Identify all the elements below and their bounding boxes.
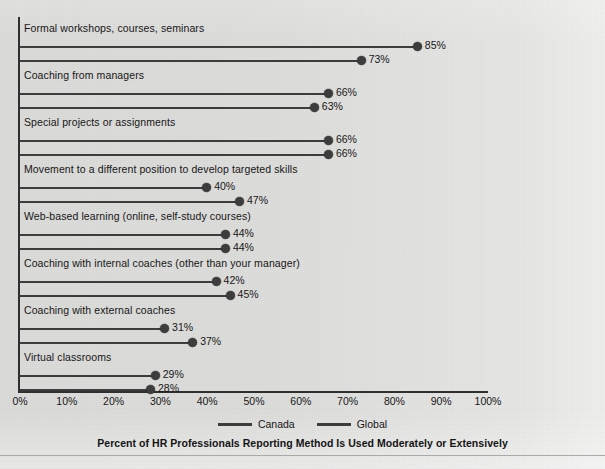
data-point-label: 66%: [336, 86, 357, 98]
legend-line-swatch: [317, 423, 351, 426]
x-axis-tick-labels: 0%10%20%30%40%50%60%70%80%90%100%: [0, 395, 605, 411]
x-axis-tick-label: 60%: [290, 395, 311, 408]
data-point-marker: [357, 56, 366, 65]
x-axis-tick-label: 100%: [475, 395, 502, 408]
data-point-marker: [310, 103, 319, 112]
legend-item-global: Global: [317, 418, 387, 431]
data-point-label: 42%: [224, 274, 245, 286]
group-label: Coaching from managers: [24, 69, 144, 81]
chart-caption: Percent of HR Professionals Reporting Me…: [0, 436, 605, 450]
group-label: Coaching with external coaches: [24, 304, 175, 316]
x-axis-line: [18, 391, 488, 393]
data-point-marker: [212, 277, 221, 286]
data-point-marker: [235, 197, 244, 206]
data-point-marker: [324, 150, 333, 159]
lollipop-stem: [20, 107, 313, 109]
data-point-marker: [160, 324, 169, 333]
data-point-label: 73%: [369, 53, 390, 65]
group-label: Special projects or assignments: [24, 116, 175, 128]
data-point-label: 44%: [233, 227, 254, 239]
data-point-marker: [221, 244, 230, 253]
data-point-label: 37%: [200, 335, 221, 347]
legend-item-canada: Canada: [218, 418, 295, 431]
data-point-marker: [188, 338, 197, 347]
data-point-label: 44%: [233, 241, 254, 253]
x-axis-tick-label: 40%: [197, 395, 218, 408]
data-point-label: 66%: [336, 147, 357, 159]
data-point-label: 31%: [172, 321, 193, 333]
legend-line-swatch: [218, 423, 252, 426]
lollipop-stem: [20, 295, 229, 297]
x-axis-tick-label: 30%: [150, 395, 171, 408]
data-point-marker: [324, 136, 333, 145]
lollipop-chart: Formal workshops, courses, seminars85%73…: [0, 0, 605, 469]
x-axis-tick-label: 10%: [56, 395, 77, 408]
data-point-label: 45%: [238, 288, 259, 300]
lollipop-stem: [20, 46, 416, 48]
data-point-label: 40%: [214, 180, 235, 192]
lollipop-stem: [20, 248, 224, 250]
group-label: Web-based learning (online, self-study c…: [24, 210, 251, 222]
group-label: Movement to a different position to deve…: [24, 163, 298, 175]
lollipop-stem: [20, 154, 327, 156]
chart-legend: CanadaGlobal: [0, 416, 605, 432]
data-point-marker: [413, 42, 422, 51]
lollipop-stem: [20, 93, 327, 95]
lollipop-stem: [20, 389, 149, 391]
x-axis-tick-label: 70%: [337, 395, 358, 408]
group-label: Coaching with internal coaches (other th…: [24, 257, 300, 269]
lollipop-stem: [20, 140, 327, 142]
x-axis-tick-label: 20%: [103, 395, 124, 408]
page-divider: [0, 455, 605, 456]
data-point-marker: [151, 371, 160, 380]
data-point-marker: [202, 183, 211, 192]
data-point-label: 66%: [336, 133, 357, 145]
data-point-marker: [324, 89, 333, 98]
legend-label: Canada: [258, 418, 295, 431]
data-point-marker: [226, 291, 235, 300]
x-axis-tick-label: 80%: [384, 395, 405, 408]
lollipop-stem: [20, 60, 360, 62]
lollipop-stem: [20, 281, 215, 283]
data-point-label: 47%: [247, 194, 268, 206]
legend-label: Global: [357, 418, 387, 431]
y-axis-line: [18, 17, 20, 392]
x-axis-tick-label: 50%: [243, 395, 264, 408]
x-axis-tick-label: 90%: [431, 395, 452, 408]
x-axis-tick-label: 0%: [12, 395, 27, 408]
lollipop-stem: [20, 187, 205, 189]
data-point-label: 85%: [425, 39, 446, 51]
data-point-marker: [146, 385, 155, 394]
lollipop-stem: [20, 375, 154, 377]
lollipop-stem: [20, 342, 191, 344]
data-point-label: 29%: [163, 368, 184, 380]
lollipop-stem: [20, 234, 224, 236]
data-point-marker: [221, 230, 230, 239]
data-point-label: 28%: [158, 382, 179, 394]
lollipop-stem: [20, 328, 163, 330]
data-point-label: 63%: [322, 100, 343, 112]
lollipop-stem: [20, 201, 238, 203]
group-label: Formal workshops, courses, seminars: [24, 22, 204, 34]
group-label: Virtual classrooms: [24, 351, 111, 363]
